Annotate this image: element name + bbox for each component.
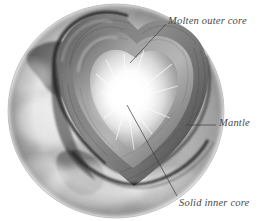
earth-interior-figure: Molten outer core Mantle Solid inner cor… (0, 0, 272, 221)
label-solid-inner-core: Solid inner core (179, 198, 249, 209)
label-mantle: Mantle (219, 118, 250, 129)
label-molten-outer-core: Molten outer core (168, 16, 247, 27)
earth-cutaway-illustration (0, 0, 272, 221)
inner-core-hotspot (107, 78, 145, 110)
